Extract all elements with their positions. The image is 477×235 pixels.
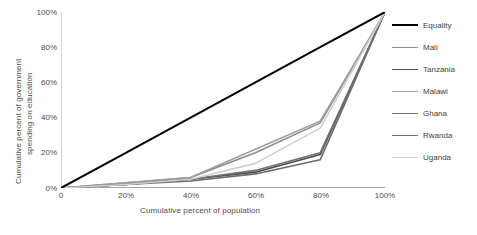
legend-item-mali[interactable]: Mali: [392, 36, 474, 58]
x-tick-100: 100%: [370, 191, 400, 200]
legend-label-rwanda: Rwanda: [423, 131, 452, 140]
legend-label-ghana: Ghana: [423, 109, 447, 118]
series-group: [61, 12, 385, 188]
x-tick-60: 60%: [241, 191, 271, 200]
legend-swatch-ghana: [392, 113, 418, 114]
legend-swatch-malawi: [392, 91, 418, 92]
x-tick-0: 0: [46, 191, 76, 200]
legend-item-rwanda[interactable]: Rwanda: [392, 124, 474, 146]
plot-area: [61, 12, 385, 188]
y-axis-title-line1: Cumulative percent of government: [14, 59, 23, 185]
x-tick-80: 80%: [306, 191, 336, 200]
legend-item-equality[interactable]: Equality: [392, 14, 474, 36]
legend-label-equality: Equality: [423, 21, 451, 30]
legend-swatch-rwanda: [392, 135, 418, 136]
legend-item-tanzania[interactable]: Tanzania: [392, 58, 474, 80]
legend-swatch-uganda: [392, 157, 418, 158]
legend-label-tanzania: Tanzania: [423, 65, 455, 74]
legend-swatch-tanzania: [392, 69, 418, 70]
legend-swatch-equality: [392, 24, 418, 26]
chart-svg: [61, 12, 385, 188]
chart-container: Cumulative percent of government spendin…: [0, 0, 477, 235]
x-axis-title: Cumulative percent of population: [140, 206, 260, 215]
legend-label-mali: Mali: [423, 43, 438, 52]
x-tick-40: 40%: [176, 191, 206, 200]
y-tick-80: 80%: [29, 43, 57, 52]
legend: Equality Mali Tanzania Malawi Ghana Rwan…: [392, 14, 474, 168]
x-tick-20: 20%: [111, 191, 141, 200]
legend-label-malawi: Malawi: [423, 87, 448, 96]
y-tick-20: 20%: [29, 148, 57, 157]
legend-item-ghana[interactable]: Ghana: [392, 102, 474, 124]
legend-label-uganda: Uganda: [423, 153, 451, 162]
legend-swatch-mali: [392, 47, 418, 48]
y-tick-60: 60%: [29, 78, 57, 87]
legend-item-malawi[interactable]: Malawi: [392, 80, 474, 102]
y-tick-100: 100%: [29, 8, 57, 17]
y-tick-40: 40%: [29, 113, 57, 122]
legend-item-uganda[interactable]: Uganda: [392, 146, 474, 168]
